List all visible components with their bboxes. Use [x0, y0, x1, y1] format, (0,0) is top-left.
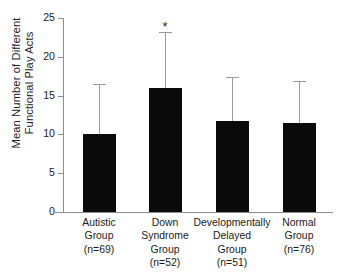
x-category-label: DevelopmentallyDelayedGroup(n=51)	[194, 216, 271, 269]
x-category-label-line: Normal	[282, 216, 316, 229]
error-bar-stem	[232, 77, 233, 121]
y-tick-0: 0	[58, 212, 63, 213]
y-tick-mark	[58, 57, 63, 58]
bar	[283, 123, 316, 212]
error-bar-cap	[293, 81, 306, 82]
x-category-label-line: Group	[282, 229, 316, 242]
error-bar-cap	[93, 84, 106, 85]
y-tick-mark	[58, 173, 63, 174]
y-tick-20: 20	[58, 57, 63, 58]
y-tick-mark	[58, 212, 63, 213]
x-category-label-line: Group	[141, 243, 188, 256]
y-axis-title: Mean Number of Different Functional Play…	[0, 0, 46, 183]
x-category-label-line: Group	[82, 229, 116, 242]
y-axis-line	[63, 18, 64, 212]
y-tick-label: 15	[43, 89, 55, 101]
x-category-label: NormalGroup(n=76)	[282, 216, 316, 256]
bar	[149, 88, 182, 212]
y-tick-15: 15	[58, 96, 63, 97]
x-category-label-line: Developmentally	[194, 216, 271, 229]
plot-area: 0510152025 *	[63, 18, 333, 212]
bar-chart-figure: Mean Number of Different Functional Play…	[0, 0, 342, 274]
x-category-label-line: Syndrome	[141, 229, 188, 242]
y-tick-label: 20	[43, 50, 55, 62]
x-category-label-line: Autistic	[82, 216, 116, 229]
error-bar-cap	[226, 77, 239, 78]
x-category-label: AutisticGroup(n=69)	[82, 216, 116, 256]
y-axis-title-line-2: Functional Play Acts	[23, 32, 36, 135]
y-tick-label: 0	[49, 205, 55, 217]
x-category-label-line: (n=52)	[141, 256, 188, 269]
y-tick-25: 25	[58, 18, 63, 19]
y-tick-label: 10	[43, 127, 55, 139]
x-category-label-line: Delayed	[194, 229, 271, 242]
y-tick-mark	[58, 134, 63, 135]
y-tick-5: 5	[58, 173, 63, 174]
bar	[83, 134, 116, 212]
error-bar-stem	[165, 32, 166, 88]
error-bar-stem	[99, 84, 100, 134]
y-tick-10: 10	[58, 134, 63, 135]
y-axis-title-line-1: Mean Number of Different	[10, 18, 23, 149]
y-tick-label: 25	[43, 11, 55, 23]
x-category-label: DownSyndromeGroup(n=52)	[141, 216, 188, 269]
x-category-label-line: (n=69)	[82, 243, 116, 256]
x-category-label-line: (n=51)	[194, 256, 271, 269]
x-axis-line	[55, 212, 333, 213]
significance-asterisk: *	[162, 20, 167, 33]
x-category-label-line: Group	[194, 243, 271, 256]
y-tick-mark	[58, 96, 63, 97]
error-bar-stem	[299, 81, 300, 123]
x-category-label-line: Down	[141, 216, 188, 229]
y-tick-mark	[58, 18, 63, 19]
y-tick-label: 5	[49, 166, 55, 178]
bar	[216, 121, 249, 212]
x-category-label-line: (n=76)	[282, 243, 316, 256]
